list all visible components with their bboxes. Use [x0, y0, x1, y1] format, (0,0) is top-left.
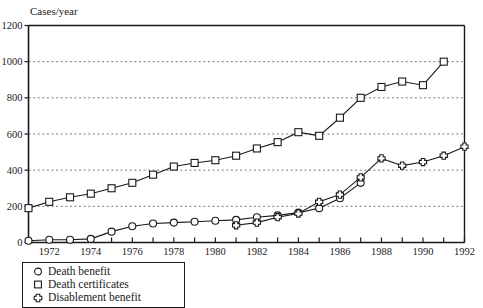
legend-label-death-certificates: Death certificates — [45, 278, 129, 291]
data-point-1-20 — [440, 58, 447, 65]
x-axis-ticks: 1972197419761978198019821984198619881990… — [29, 238, 476, 257]
cross-circle-marker-icon — [31, 291, 45, 304]
legend-item-disablement-benefit: Disablement benefit — [31, 291, 184, 304]
x-tick-label-1972: 1972 — [39, 246, 60, 257]
legend-label-death-benefit: Death benefit — [45, 265, 110, 278]
y-tick-label-400: 400 — [7, 165, 23, 176]
x-tick-label-1988: 1988 — [371, 246, 392, 257]
data-point-0-4 — [108, 228, 115, 235]
data-point-1-6 — [150, 171, 157, 178]
y-tick-label-200: 200 — [7, 201, 23, 212]
data-point-1-1 — [46, 198, 53, 205]
data-point-1-7 — [170, 163, 177, 170]
legend-item-death-certificates: Death certificates — [31, 278, 184, 291]
y-tick-label-800: 800 — [7, 92, 23, 103]
data-point-1-9 — [212, 157, 219, 164]
y-tick-label-1000: 1000 — [2, 56, 23, 67]
data-point-1-8 — [191, 159, 198, 166]
data-point-0-0 — [25, 237, 32, 244]
data-point-1-14 — [316, 132, 323, 139]
data-point-0-8 — [191, 218, 198, 225]
data-point-0-5 — [129, 223, 136, 230]
data-point-1-16 — [357, 94, 364, 101]
legend-label-disablement-benefit: Disablement benefit — [45, 291, 141, 304]
y-axis-ticks: 020040060080010001200 — [2, 20, 29, 248]
data-point-1-12 — [274, 139, 281, 146]
data-point-1-10 — [233, 152, 240, 159]
data-point-1-15 — [336, 114, 343, 121]
x-tick-label-1974: 1974 — [80, 246, 102, 257]
legend-item-death-benefit: Death benefit — [31, 265, 184, 278]
series-death-benefit — [25, 179, 364, 244]
x-tick-label-1980: 1980 — [205, 246, 226, 257]
data-point-0-6 — [150, 220, 157, 227]
x-tick-label-1984: 1984 — [288, 246, 310, 257]
data-point-1-18 — [399, 78, 406, 85]
data-point-1-11 — [253, 145, 260, 152]
data-point-0-9 — [212, 217, 219, 224]
data-point-1-13 — [295, 129, 302, 136]
y-axis-label: Cases/year — [30, 5, 78, 17]
series-line-0 — [29, 183, 361, 241]
data-series — [25, 58, 468, 244]
data-point-2-11 — [461, 143, 468, 150]
data-point-1-3 — [87, 190, 94, 197]
data-point-1-17 — [378, 83, 385, 90]
x-tick-label-1990: 1990 — [412, 246, 433, 257]
x-tick-label-1992: 1992 — [454, 246, 475, 257]
data-point-1-0 — [25, 205, 32, 212]
data-point-2-9 — [419, 158, 426, 165]
circle-marker-icon — [31, 265, 45, 278]
data-point-0-2 — [67, 236, 74, 243]
data-point-0-1 — [46, 236, 53, 243]
y-tick-label-1200: 1200 — [2, 20, 23, 31]
data-point-0-7 — [170, 219, 177, 226]
data-point-1-4 — [108, 185, 115, 192]
chart-legend: Death benefit Death certificates Disable… — [22, 262, 185, 308]
data-point-1-19 — [419, 82, 426, 89]
y-tick-label-600: 600 — [7, 129, 23, 140]
series-death-certificates — [25, 58, 447, 211]
x-tick-label-1976: 1976 — [122, 246, 143, 257]
series-line-2 — [236, 147, 464, 226]
x-tick-label-1978: 1978 — [163, 246, 184, 257]
x-tick-label-1982: 1982 — [246, 246, 267, 257]
data-point-1-2 — [67, 194, 74, 201]
y-tick-label-0: 0 — [17, 237, 22, 248]
x-tick-label-1986: 1986 — [329, 246, 350, 257]
square-marker-icon — [31, 278, 45, 291]
data-point-0-3 — [87, 235, 94, 242]
data-point-1-5 — [129, 179, 136, 186]
data-point-2-8 — [399, 162, 406, 169]
data-point-2-10 — [440, 152, 447, 159]
data-point-2-4 — [316, 198, 323, 205]
